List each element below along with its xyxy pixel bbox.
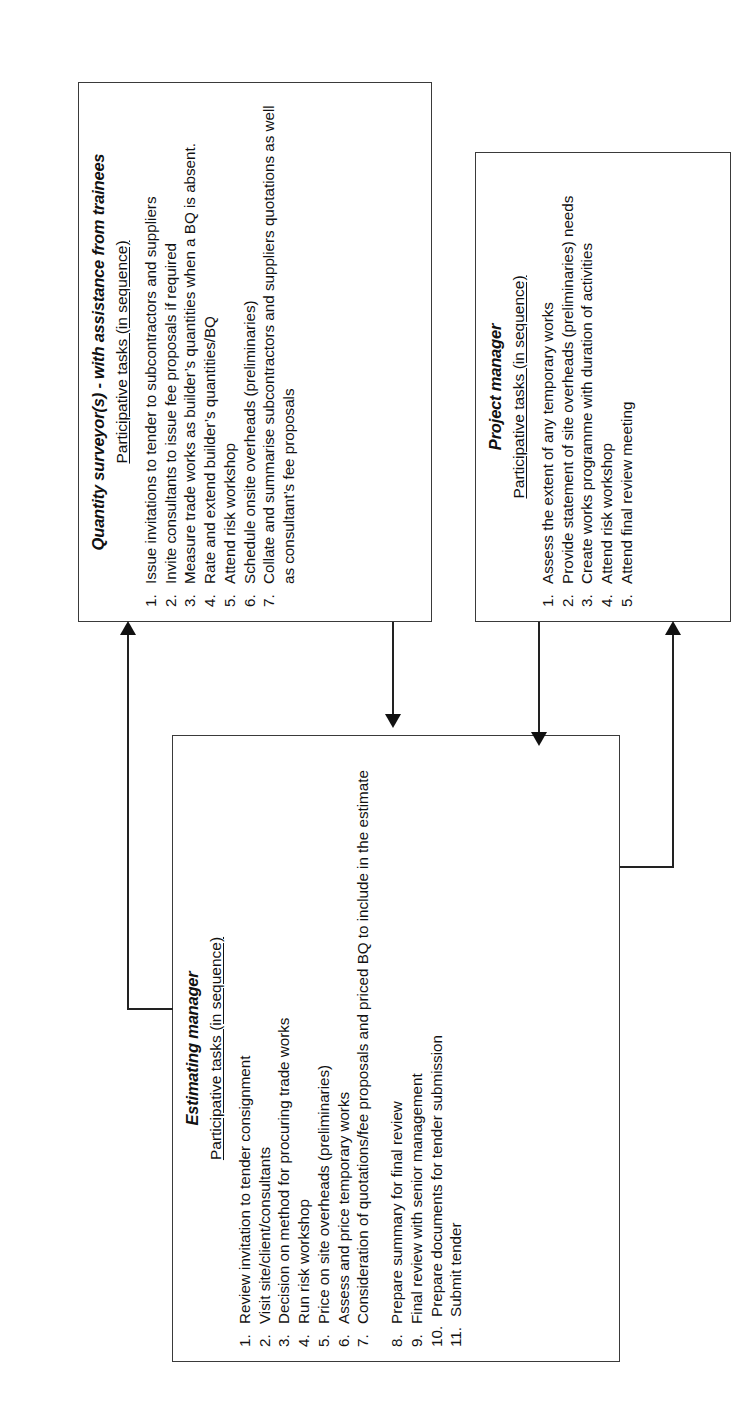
connector-estimating-to-pm-arrowhead: [665, 621, 681, 635]
task-number: 6.: [334, 1326, 354, 1347]
box-quantity-surveyor-title: Quantity surveyor(s) - with assistance f…: [89, 97, 108, 607]
task-item: 5. Attend final review meeting: [617, 167, 637, 607]
box-estimating-manager-subtitle: Participative tasks (in sequence): [207, 750, 225, 1347]
task-item: 3. Create works programme with duration …: [577, 167, 597, 607]
task-number: 2.: [161, 586, 181, 607]
task-number: 4.: [294, 1326, 314, 1347]
box-quantity-surveyor: Quantity surveyor(s) - with assistance f…: [78, 82, 432, 622]
task-item: 4. Run risk workshop: [294, 750, 314, 1347]
task-number: 4.: [200, 586, 220, 607]
task-number: 1.: [235, 1326, 255, 1347]
task-number: 3.: [180, 586, 200, 607]
box-project-manager-title: Project manager: [486, 167, 505, 607]
task-number: 5.: [617, 586, 637, 607]
task-number: 7.: [259, 586, 279, 607]
connector-pm-to-estimating-segment-horizontal: [538, 622, 540, 735]
task-text: Provide statement of site overheads (pre…: [559, 196, 576, 584]
connector-pm-to-estimating-arrowhead: [531, 732, 547, 746]
task-number: 10.: [427, 1319, 447, 1347]
connector-estimating-to-pm-segment-vertical: [620, 867, 673, 869]
task-number: 9.: [407, 1326, 427, 1347]
task-item: 6. Schedule onsite overheads (preliminar…: [240, 97, 260, 607]
task-number: 1.: [141, 586, 161, 607]
box-estimating-manager-content: Estimating manager Participative tasks (…: [173, 736, 619, 1361]
task-item: 11. Submit tender: [446, 750, 466, 1347]
task-text: Invite consultants to issue fee proposal…: [162, 243, 179, 584]
task-text: Assess and price temporary works: [335, 1092, 352, 1324]
task-text: Consideration of quotations/fee proposal…: [354, 770, 371, 1324]
task-text: Prepare summary for final review: [388, 1101, 405, 1324]
task-text: Attend risk workshop: [598, 443, 615, 584]
task-number: 11.: [446, 1319, 466, 1347]
task-item: 6. Assess and price temporary works: [334, 750, 354, 1347]
task-item: 4. Rate and extend builder’s quantities/…: [200, 97, 220, 607]
box-estimating-manager: Estimating manager Participative tasks (…: [172, 735, 620, 1362]
task-text: Final review with senior management: [408, 1073, 425, 1324]
task-text: Review invitation to tender consignment: [236, 1056, 253, 1324]
task-text: Create works programme with duration of …: [578, 243, 595, 584]
task-number: 5.: [314, 1326, 334, 1347]
task-text: Price on site overheads (preliminaries): [315, 1065, 332, 1324]
task-text: Decision on method for procuring trade w…: [275, 1018, 292, 1324]
connector-estimating-to-qs-segment-horizontal: [127, 634, 129, 1010]
task-item: 1. Issue invitations to tender to subcon…: [141, 97, 161, 607]
task-text: Run risk workshop: [295, 1199, 312, 1324]
connector-estimating-to-pm-segment-horizontal: [672, 634, 674, 868]
box-project-manager: Project manager Participative tasks (in …: [475, 152, 731, 622]
task-item: 10. Prepare documents for tender submiss…: [427, 750, 447, 1347]
task-text: Submit tender: [447, 1222, 464, 1317]
task-item: 2. Invite consultants to issue fee propo…: [161, 97, 181, 607]
task-item: 9. Final review with senior management: [407, 750, 427, 1347]
task-number: 8.: [387, 1326, 407, 1347]
task-number: 5.: [220, 586, 240, 607]
task-number: 2.: [558, 586, 578, 607]
task-item: 2. Provide statement of site overheads (…: [558, 167, 578, 607]
task-item: 5. Attend risk workshop: [220, 97, 240, 607]
task-item: 7. Consideration of quotations/fee propo…: [353, 750, 373, 1347]
task-item: 3. Decision on method for procuring trad…: [274, 750, 294, 1347]
task-number: 7.: [353, 1326, 373, 1347]
task-text: Attend risk workshop: [221, 443, 238, 584]
task-number: 1.: [538, 586, 558, 607]
connector-estimating-to-qs-segment-vertical: [127, 1009, 173, 1011]
task-item: 2. Visit site/client/consultants: [255, 750, 275, 1347]
task-text: Collate and summarise subcontractors and…: [260, 105, 297, 584]
task-text: Attend final review meeting: [618, 402, 635, 584]
task-text: Schedule onsite overheads (preliminaries…: [241, 300, 258, 584]
task-item: 3. Measure trade works as builder’s quan…: [180, 97, 200, 607]
task-text: Visit site/client/consultants: [256, 1147, 273, 1324]
connector-qs-to-estimating-arrowhead: [385, 714, 401, 728]
task-number: 3.: [577, 586, 597, 607]
box-estimating-manager-title: Estimating manager: [183, 750, 202, 1347]
task-number: 2.: [255, 1326, 275, 1347]
box-project-manager-subtitle-text: Participative tasks (in sequence): [510, 275, 527, 498]
task-text: Issue invitations to tender to subcontra…: [142, 197, 159, 585]
box-quantity-surveyor-content: Quantity surveyor(s) - with assistance f…: [79, 83, 431, 621]
task-item: 8. Prepare summary for final review: [387, 750, 407, 1347]
connector-qs-to-estimating-segment-horizontal: [392, 622, 394, 716]
task-item: 1. Review invitation to tender consignme…: [235, 750, 255, 1347]
task-number: 4.: [597, 586, 617, 607]
task-item: 1. Assess the extent of any temporary wo…: [538, 167, 558, 607]
task-item: 5. Price on site overheads (preliminarie…: [314, 750, 334, 1347]
connector-estimating-to-qs-arrowhead: [120, 621, 136, 635]
box-project-manager-content: Project manager Participative tasks (in …: [476, 153, 730, 621]
task-text: Rate and extend builder’s quantities/BQ: [201, 316, 218, 584]
task-text: Measure trade works as builder’s quantit…: [181, 143, 198, 584]
box-project-manager-subtitle: Participative tasks (in sequence): [510, 167, 528, 607]
task-list-estimating-manager: 1. Review invitation to tender consignme…: [235, 750, 466, 1347]
box-quantity-surveyor-subtitle: Participative tasks (in sequence): [113, 97, 131, 607]
task-list-quantity-surveyor: 1. Issue invitations to tender to subcon…: [141, 97, 299, 607]
task-text: Prepare documents for tender submission: [428, 1035, 445, 1317]
task-item: 4. Attend risk workshop: [597, 167, 617, 607]
task-number: 3.: [274, 1326, 294, 1347]
box-quantity-surveyor-subtitle-text: Participative tasks (in sequence): [113, 240, 130, 463]
task-text: Assess the extent of any temporary works: [539, 302, 556, 584]
task-item: 7. Collate and summarise subcontractors …: [259, 97, 299, 607]
task-list-project-manager: 1. Assess the extent of any temporary wo…: [538, 167, 637, 607]
task-number: 6.: [240, 586, 260, 607]
box-estimating-manager-subtitle-text: Participative tasks (in sequence): [207, 937, 224, 1160]
